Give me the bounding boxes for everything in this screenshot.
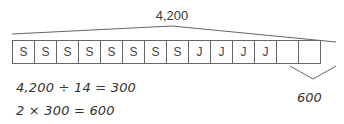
- part-label: 600: [297, 90, 322, 105]
- tape-cell: J: [188, 40, 211, 64]
- tape-cell: J: [254, 40, 277, 64]
- part-brace: [290, 66, 336, 79]
- tape-cell: S: [12, 40, 35, 64]
- tape-cell: J: [210, 40, 233, 64]
- tape-cell: S: [100, 40, 123, 64]
- tape-cell: S: [166, 40, 189, 64]
- tape-cell: J: [232, 40, 255, 64]
- tape-cell-empty: [276, 40, 299, 64]
- equation-multiplication: 2 × 300 = 600: [16, 103, 115, 118]
- tape-diagram: S S S S S S S S J J J J: [12, 40, 321, 64]
- tape-cell: S: [122, 40, 145, 64]
- tape-cell: S: [144, 40, 167, 64]
- tape-cell: S: [56, 40, 79, 64]
- tape-cell-empty: [298, 40, 321, 64]
- tape-cell: S: [78, 40, 101, 64]
- tape-cell: S: [34, 40, 57, 64]
- equation-division: 4,200 ÷ 14 = 300: [16, 80, 136, 95]
